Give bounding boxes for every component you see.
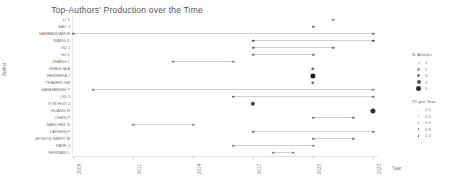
legend-entry-label: 4 bbox=[425, 80, 427, 85]
chart-container: Top-Authors' Production over the Time Au… bbox=[0, 0, 464, 178]
legend-marker-icon bbox=[412, 62, 425, 64]
author-row: PARK J bbox=[73, 142, 373, 149]
legend-entry-label: 3 bbox=[425, 73, 427, 78]
author-row: GU J bbox=[73, 44, 373, 51]
author-timeline-segment bbox=[253, 54, 313, 55]
data-point bbox=[251, 101, 255, 105]
author-row: HERRERA J bbox=[73, 72, 373, 79]
data-point bbox=[232, 95, 235, 98]
legend-marker-icon bbox=[412, 86, 425, 91]
author-row-label: ZHANG L bbox=[52, 58, 70, 65]
author-row: LIU J bbox=[73, 93, 373, 100]
author-row: GRAGLIA A bbox=[73, 65, 373, 72]
author-timeline-segment bbox=[93, 89, 373, 90]
x-axis-tick bbox=[193, 156, 194, 159]
author-timeline-segment bbox=[273, 152, 293, 153]
author-timeline-segment bbox=[173, 61, 233, 62]
data-point bbox=[352, 116, 355, 119]
author-row-label: HERRERA J bbox=[47, 72, 70, 79]
data-point bbox=[312, 137, 315, 140]
legend-entry-label: 2 bbox=[425, 67, 427, 72]
x-axis-tick bbox=[313, 156, 314, 159]
legend-marker-icon bbox=[412, 80, 425, 84]
chart-title: Top-Authors' Production over the Time bbox=[0, 5, 464, 15]
author-timeline-segment bbox=[253, 47, 333, 48]
legend-title: TC per Year bbox=[412, 99, 435, 104]
data-point bbox=[232, 144, 235, 147]
author-row-label: TRAMER DM bbox=[45, 79, 70, 86]
data-point bbox=[310, 73, 315, 78]
author-timeline-segment bbox=[233, 96, 373, 97]
author-timeline-segment bbox=[253, 40, 373, 41]
legend-tc-per-year: TC per Year0.20.40.60.81.0 bbox=[412, 99, 435, 139]
author-timeline-segment bbox=[73, 33, 373, 34]
data-point bbox=[252, 46, 255, 49]
data-point bbox=[132, 123, 135, 126]
author-row-label: HUANG H bbox=[51, 107, 70, 114]
author-row-label: LARSEN P bbox=[50, 128, 70, 135]
data-point bbox=[332, 46, 335, 49]
data-point bbox=[252, 53, 255, 56]
author-row-label: FERRARI L bbox=[49, 149, 70, 156]
x-axis-tick bbox=[73, 156, 74, 159]
x-axis-title: Year bbox=[392, 166, 401, 171]
author-row: BAO J bbox=[73, 23, 373, 30]
data-point bbox=[312, 116, 315, 119]
author-timeline-segment bbox=[233, 145, 313, 146]
author-row-label: BAO J bbox=[58, 23, 70, 30]
x-axis-tick bbox=[133, 156, 134, 159]
author-row-label: GU L bbox=[60, 51, 70, 58]
legend-title: N. Articles bbox=[412, 52, 432, 57]
data-point bbox=[292, 151, 295, 154]
data-point bbox=[252, 39, 255, 42]
author-row: TRAMER DM bbox=[73, 79, 373, 86]
author-row: HUANG H bbox=[73, 107, 373, 114]
data-point bbox=[352, 137, 355, 140]
author-row: SANCHEZ S bbox=[73, 121, 373, 128]
data-point bbox=[311, 67, 314, 70]
author-row: SAMMAMISH Y bbox=[73, 86, 373, 93]
data-point bbox=[311, 81, 314, 84]
author-row-label: LI Y bbox=[63, 16, 70, 23]
data-point bbox=[72, 32, 75, 35]
legend-marker-icon bbox=[412, 135, 425, 137]
chart-title-text: Top-Authors' Production over the Time bbox=[51, 5, 203, 15]
legend-marker-icon bbox=[412, 122, 425, 124]
data-point bbox=[312, 53, 315, 56]
author-row: LARSEN P bbox=[73, 128, 373, 135]
x-axis-tick-label: 2020 bbox=[317, 164, 322, 174]
legend-marker-icon bbox=[412, 74, 425, 77]
legend-marker-icon bbox=[412, 128, 425, 130]
author-row-label: CHEN P bbox=[55, 114, 70, 121]
legend-entry: 1.0 bbox=[412, 133, 435, 140]
data-point bbox=[370, 108, 375, 113]
y-axis-title: Author bbox=[2, 62, 7, 76]
x-axis-tick-label: 2011 bbox=[137, 164, 142, 174]
legend-marker-icon bbox=[412, 115, 425, 117]
legend-entry-label: 0.2 bbox=[425, 107, 431, 112]
legend-marker-icon bbox=[412, 109, 425, 111]
author-row: MONTGOMERY M bbox=[73, 135, 373, 142]
author-row: FERRARI L bbox=[73, 149, 373, 156]
data-point bbox=[312, 144, 315, 147]
x-axis-tick-label: 2017 bbox=[257, 164, 262, 174]
x-axis-line bbox=[73, 156, 378, 157]
author-row: CHEN P bbox=[73, 114, 373, 121]
author-timeline-segment bbox=[253, 131, 373, 132]
author-row-label: PARK J bbox=[56, 142, 70, 149]
x-axis-tick-label: 2023 bbox=[377, 164, 382, 174]
plot-area: LI YBAO JSAMBASIVAM MWANG DGU JGU LZHANG… bbox=[73, 16, 373, 156]
legend-entry-label: 1 bbox=[425, 60, 427, 65]
legend-marker-icon bbox=[412, 68, 425, 71]
data-point bbox=[372, 39, 375, 42]
author-row: ZHANG L bbox=[73, 58, 373, 65]
legend-entry-label: 0.4 bbox=[425, 114, 431, 119]
author-row-label: GU J bbox=[61, 44, 70, 51]
legend-entry-label: 1.0 bbox=[425, 133, 431, 138]
data-point bbox=[372, 130, 375, 133]
data-point bbox=[172, 60, 175, 63]
author-row-label: SANCHEZ S bbox=[47, 121, 70, 128]
data-point bbox=[252, 130, 255, 133]
data-point bbox=[372, 95, 375, 98]
author-row-label: MONTGOMERY M bbox=[35, 135, 70, 142]
